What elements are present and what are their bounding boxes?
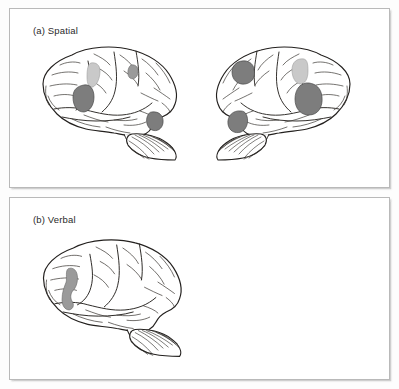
activation-dorsolateral-prefrontal (232, 61, 255, 84)
figure-container: (a) Spatial (0, 0, 399, 389)
activation-inferior-parietal (73, 85, 94, 112)
cerebrum-outline (43, 240, 181, 332)
brain-outline-group-mirrored (217, 47, 350, 160)
activation-inferior-parietal (295, 83, 322, 115)
activation-superior-parietal (292, 59, 308, 84)
activation-premotor-dorsal (128, 65, 138, 79)
cerebellum (127, 134, 177, 160)
cerebellum (217, 134, 267, 160)
brain-verbal-left-hemisphere (28, 233, 193, 358)
cerebellum (130, 329, 181, 356)
brain-spatial-right-hemisphere (205, 41, 365, 161)
panel-spatial: (a) Spatial (9, 8, 390, 188)
activation-occipital-extrastriate (147, 112, 164, 131)
panel-label-spatial: (a) Spatial (33, 25, 78, 36)
brain-spatial-left-hemisphere (28, 41, 188, 161)
activation-occipital-extrastriate (228, 111, 248, 133)
panel-verbal: (b) Verbal (9, 197, 390, 380)
panel-label-verbal: (b) Verbal (33, 214, 76, 225)
